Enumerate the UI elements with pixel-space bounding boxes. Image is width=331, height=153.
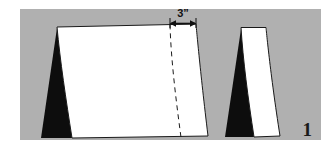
large-sheet-body [57,24,208,138]
figure-number-label: 1 [303,119,313,140]
figure-container: 3” 1 [0,0,331,153]
dimension-label: 3” [177,7,189,19]
figure-illustration: 3” 1 [0,0,331,153]
large-draped-sheet-group [41,24,208,138]
